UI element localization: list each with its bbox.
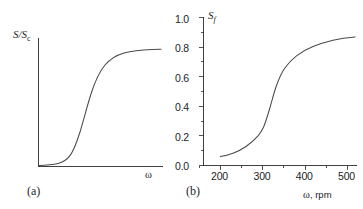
panel-b-y-axis-title: Sf — [208, 10, 216, 24]
panel-b-x-axis-symbol: ω — [303, 189, 310, 200]
panel-b-ytick-0: 0.0 — [175, 161, 189, 172]
panel-b-ytick-4: 0.8 — [175, 43, 189, 54]
panel-b-ytick-3: 0.6 — [175, 73, 189, 84]
panel-b-tag: (b) — [186, 185, 200, 197]
panel-b-ytick-2: 0.4 — [175, 102, 189, 113]
panel-a: S/Sc ω (a) — [0, 0, 180, 209]
panel-b-axes — [204, 17, 358, 166]
panel-b-xtick-2: 400 — [296, 171, 313, 182]
panel-b-curve — [220, 37, 355, 157]
panel-b-ytick-5: 1.0 — [175, 14, 189, 25]
panel-b-x-axis-unit: , rpm — [310, 189, 332, 200]
figure-container: S/Sc ω (a) — [0, 0, 363, 209]
panel-b-xtick-1: 300 — [254, 171, 271, 182]
panel-b-ytick-1: 0.2 — [175, 132, 189, 143]
panel-a-axes — [39, 38, 164, 167]
panel-a-curve — [39, 49, 161, 165]
panel-a-y-axis-title-main: S/S — [13, 28, 27, 40]
panel-a-y-axis-title: S/Sc — [13, 29, 31, 43]
panel-b-xtick-0: 200 — [211, 171, 228, 182]
panel-a-x-axis-title: ω — [145, 170, 152, 181]
panel-a-tag: (a) — [27, 185, 40, 197]
panel-a-y-axis-title-sub: c — [27, 34, 31, 43]
panel-b: 0.0 0.2 0.4 0.6 0.8 1.0 200 300 400 500 … — [175, 0, 363, 209]
panel-b-x-axis-title: ω, rpm — [303, 185, 332, 201]
panel-b-xtick-3: 500 — [338, 171, 355, 182]
panel-b-y-axis-title-sub: f — [214, 15, 216, 24]
